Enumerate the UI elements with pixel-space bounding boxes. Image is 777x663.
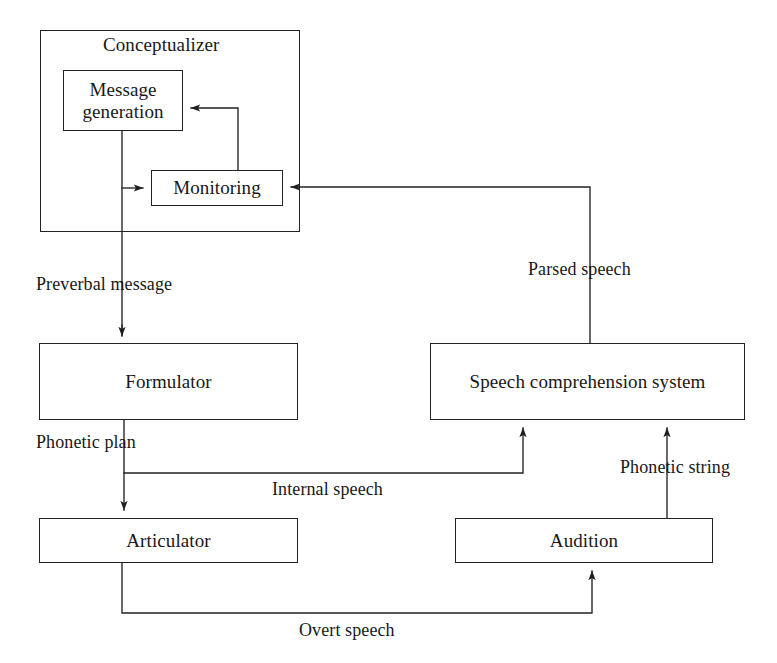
edge-label-phonetic-string: Phonetic string [620,457,730,478]
node-formulator[interactable]: Formulator [39,343,298,420]
node-speech-comprehension-system[interactable]: Speech comprehension system [430,343,745,420]
edge-label-phonetic-plan: Phonetic plan [36,432,136,453]
edge-label-parsed-speech: Parsed speech [528,259,631,280]
group-conceptualizer-label: Conceptualizer [103,34,219,56]
node-message-generation-label: Message generation [82,79,163,122]
edge-label-preverbal-message: Preverbal message [36,274,172,295]
node-monitoring[interactable]: Monitoring [151,170,283,206]
edge-label-overt-speech: Overt speech [299,620,395,641]
edge-label-internal-speech: Internal speech [272,479,383,500]
node-formulator-label: Formulator [125,371,212,392]
diagram-canvas: Conceptualizer Message generation Monito… [0,0,777,663]
line-overt-speech [122,563,592,613]
node-audition-label: Audition [550,530,618,551]
line-internal-speech [124,428,523,473]
node-message-generation[interactable]: Message generation [63,70,183,131]
node-articulator-label: Articulator [126,530,210,551]
node-audition[interactable]: Audition [455,518,713,563]
node-articulator[interactable]: Articulator [39,518,298,563]
node-speech-comprehension-system-label: Speech comprehension system [470,371,706,392]
node-monitoring-label: Monitoring [173,177,261,198]
